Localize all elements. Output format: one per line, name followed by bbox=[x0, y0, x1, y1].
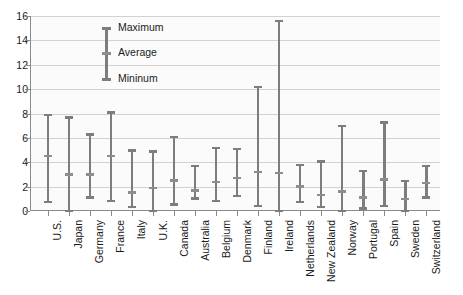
maximum-cap bbox=[191, 165, 199, 168]
y-axis-tick-mark bbox=[25, 40, 30, 41]
range-bar bbox=[131, 150, 134, 207]
maximum-cap bbox=[401, 180, 409, 183]
maximum-cap bbox=[422, 165, 430, 168]
mininum-cap bbox=[233, 195, 241, 198]
range-bar bbox=[236, 149, 239, 197]
range-bar bbox=[47, 115, 50, 203]
range-bar bbox=[194, 166, 197, 199]
x-axis-category-label: Sweden bbox=[410, 220, 421, 258]
maximum-cap bbox=[212, 147, 220, 150]
range-bar bbox=[89, 134, 92, 197]
maximum-cap bbox=[170, 136, 178, 139]
x-axis-category-label: Netherlands bbox=[305, 220, 316, 277]
average-marker bbox=[212, 181, 220, 184]
maximum-cap bbox=[128, 149, 136, 152]
mininum-cap bbox=[149, 210, 157, 213]
range-bar bbox=[215, 148, 218, 202]
mininum-cap bbox=[296, 201, 304, 204]
gridline bbox=[31, 114, 440, 115]
x-axis-tick-mark bbox=[111, 211, 112, 216]
average-marker bbox=[317, 194, 325, 197]
mininum-cap bbox=[401, 210, 409, 213]
x-axis-category-label: Finland bbox=[263, 220, 274, 254]
average-marker bbox=[254, 171, 262, 174]
x-axis-category-label: Australia bbox=[200, 220, 211, 261]
maximum-cap bbox=[338, 125, 346, 128]
legend-label-maximum: Maximum bbox=[118, 22, 164, 33]
x-axis-category-label: Spain bbox=[389, 220, 400, 247]
range-bar bbox=[320, 161, 323, 207]
x-axis-category-label: Denmark bbox=[242, 220, 253, 263]
mininum-cap bbox=[380, 205, 388, 208]
mininum-cap bbox=[191, 197, 199, 200]
average-marker bbox=[359, 196, 367, 199]
range-bar bbox=[278, 21, 281, 211]
mininum-cap bbox=[317, 206, 325, 209]
x-axis-category-label: Norway bbox=[347, 220, 358, 256]
y-axis-tick-mark bbox=[25, 89, 30, 90]
maximum-cap bbox=[65, 116, 73, 119]
mininum-cap bbox=[212, 200, 220, 203]
x-axis-tick-mark bbox=[258, 211, 259, 216]
y-axis-tick-mark bbox=[25, 211, 30, 212]
mininum-cap bbox=[254, 205, 262, 208]
range-chart: 0246810121416U.S.JapanGermanyFranceItaly… bbox=[0, 0, 463, 295]
x-axis-category-label: France bbox=[115, 220, 126, 253]
maximum-cap bbox=[275, 20, 283, 23]
range-bar bbox=[383, 122, 386, 206]
average-marker bbox=[233, 177, 241, 180]
average-marker bbox=[422, 182, 430, 185]
y-axis-tick-mark bbox=[25, 138, 30, 139]
average-marker bbox=[380, 178, 388, 181]
x-axis-tick-mark bbox=[426, 211, 427, 216]
maximum-cap bbox=[44, 114, 52, 117]
average-marker bbox=[128, 191, 136, 194]
x-axis-category-label: Belgium bbox=[221, 220, 232, 258]
mininum-cap bbox=[170, 203, 178, 206]
average-marker bbox=[401, 198, 409, 201]
x-axis-tick-mark bbox=[90, 211, 91, 216]
x-axis-category-label: U.S. bbox=[52, 220, 63, 240]
x-axis-tick-mark bbox=[174, 211, 175, 216]
maximum-cap bbox=[86, 133, 94, 136]
average-marker bbox=[296, 185, 304, 188]
x-axis-tick-mark bbox=[132, 211, 133, 216]
range-bar bbox=[173, 137, 176, 205]
maximum-cap bbox=[317, 160, 325, 163]
average-marker bbox=[275, 172, 283, 175]
x-axis-tick-mark bbox=[237, 211, 238, 216]
average-marker bbox=[149, 187, 157, 190]
maximum-cap bbox=[296, 164, 304, 167]
mininum-cap bbox=[86, 196, 94, 199]
range-bar bbox=[341, 126, 344, 211]
maximum-cap bbox=[254, 86, 262, 89]
y-axis-tick-mark bbox=[25, 65, 30, 66]
mininum-cap bbox=[422, 196, 430, 199]
x-axis-tick-mark bbox=[321, 211, 322, 216]
y-axis-tick-mark bbox=[25, 162, 30, 163]
maximum-cap bbox=[107, 111, 115, 114]
average-marker bbox=[191, 189, 199, 192]
range-bar bbox=[152, 151, 155, 211]
x-axis-category-label: New Zealand bbox=[326, 220, 337, 282]
legend-maximum-cap-icon bbox=[102, 27, 111, 30]
x-axis-tick-mark bbox=[363, 211, 364, 216]
legend-label-mininum: Mininum bbox=[118, 73, 158, 84]
range-bar bbox=[257, 87, 260, 206]
x-axis-tick-mark bbox=[48, 211, 49, 216]
chart-legend: Maximum Average Mininum bbox=[96, 20, 186, 86]
range-bar bbox=[404, 181, 407, 211]
y-axis-tick-mark bbox=[25, 187, 30, 188]
average-marker bbox=[44, 155, 52, 158]
range-bar bbox=[362, 171, 365, 209]
gridline bbox=[31, 16, 440, 17]
x-axis-category-label: Ireland bbox=[284, 220, 295, 252]
x-axis-tick-mark bbox=[384, 211, 385, 216]
x-axis-tick-mark bbox=[216, 211, 217, 216]
y-axis-tick-mark bbox=[25, 16, 30, 17]
range-bar bbox=[68, 117, 71, 211]
maximum-cap bbox=[233, 148, 241, 151]
x-axis-category-label: Portugal bbox=[368, 220, 379, 259]
y-axis-tick-mark bbox=[25, 114, 30, 115]
gridline bbox=[31, 89, 440, 90]
